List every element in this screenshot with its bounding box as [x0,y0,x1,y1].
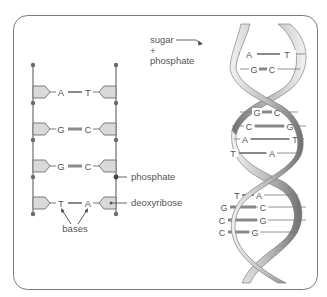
base-letter: T [85,87,91,98]
dna-structure-diagram: A T G C G C [0,0,327,297]
base-letter: G [259,216,266,226]
ladder-model: A T G C G C [31,63,182,234]
bases-callout: bases [61,208,88,234]
base-letter: A [269,149,275,159]
base-letter: A [85,198,92,209]
base-letter: G [251,228,258,238]
base-letter: G [220,203,227,213]
base-letter: T [58,198,64,209]
base-letter: C [246,122,253,132]
base-letter: G [57,161,64,172]
base-letter: G [250,65,257,75]
ladder-pair-3: G C [33,160,116,172]
base-letter: C [85,124,92,135]
arrow-to-left-base [62,210,71,224]
deoxyribose-pentagon-left [33,86,50,98]
ladder-pair-2: G C [33,123,116,135]
deoxyribose-callout: deoxyribose [112,197,182,208]
sugar-phosphate-callout: sugar + phosphate [150,34,203,66]
base-letter: T [230,149,236,159]
arrow-to-right-base [78,210,87,224]
sugar-label: sugar [150,34,174,45]
phosphate-callout: phosphate [114,171,176,182]
base-letter: C [85,161,92,172]
ladder-pair-1: A T [33,86,116,98]
phosphate-helix-label: phosphate [150,55,194,66]
base-letter: T [234,191,240,201]
ladder-pair-4: T A [33,197,116,209]
phosphate-label: phosphate [131,171,175,182]
deoxyribose-label: deoxyribose [131,197,182,208]
base-letter: C [269,65,276,75]
base-letter: A [58,87,65,98]
bases-label: bases [62,223,88,234]
base-letter: A [242,135,248,145]
base-letter: A [246,50,252,60]
base-letter: C [219,228,226,238]
base-letter: G [253,108,260,118]
base-letter: T [284,50,290,60]
base-letter: C [260,203,267,213]
base-letter: C [219,216,226,226]
deoxyribose-pentagon-right [99,86,116,98]
double-helix-model: A A T G C G C C G A [215,24,306,283]
base-letter: G [57,124,64,135]
